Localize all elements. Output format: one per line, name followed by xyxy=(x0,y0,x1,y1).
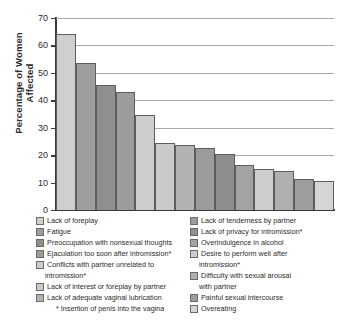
legend-label: Conflicts with partner unrelated to xyxy=(47,260,186,269)
legend-swatch-icon xyxy=(190,305,198,313)
legend-swatch-icon xyxy=(36,283,44,291)
legend-item[interactable]: Overeating xyxy=(190,304,348,313)
bar xyxy=(175,145,195,210)
legend-item[interactable]: Painful sexual intercourse xyxy=(190,293,348,302)
y-axis-title: Percentage of Women Affected xyxy=(13,3,35,163)
bar xyxy=(215,154,235,210)
legend-label: Preoccupation with nonsexual thoughts xyxy=(47,238,186,247)
legend-swatch-icon xyxy=(190,294,198,302)
y-tick-label: 70 xyxy=(18,13,48,23)
legend-swatch-icon xyxy=(36,217,44,225)
legend-swatch-icon xyxy=(190,239,198,247)
legend-label: Overindulgence in alcohol xyxy=(201,238,348,247)
chart-page: Percentage of Women Affected 70605040302… xyxy=(0,0,350,334)
footnote: * Insertion of penis into the vagina xyxy=(56,304,164,313)
legend-item[interactable]: Overindulgence in alcohol xyxy=(190,238,348,247)
legend-column-right: Lack of tenderness by partnerLack of pri… xyxy=(190,216,348,315)
legend-label: Lack of foreplay xyxy=(47,216,186,225)
bar xyxy=(195,148,215,210)
bar xyxy=(254,169,274,210)
legend-item[interactable]: Lack of foreplay xyxy=(36,216,186,225)
legend-item[interactable]: Ejaculation too soon after intromission* xyxy=(36,249,186,258)
legend-item[interactable]: Difficulty with sexual arousal xyxy=(190,271,348,280)
y-tick-label: 40 xyxy=(18,95,48,105)
legend-swatch-icon xyxy=(190,217,198,225)
legend-label: Fatigue xyxy=(47,227,186,236)
y-tick-label: 50 xyxy=(18,68,48,78)
legend-item[interactable]: Desire to perform well after xyxy=(190,249,348,258)
legend-item[interactable]: Conflicts with partner unrelated to xyxy=(36,260,186,269)
legend-label-continuation: intromission* xyxy=(190,260,348,269)
bar xyxy=(155,143,175,210)
legend-item[interactable]: Lack of tenderness by partner xyxy=(190,216,348,225)
bar xyxy=(274,171,294,210)
legend-swatch-icon xyxy=(190,228,198,236)
legend-item[interactable]: Fatigue xyxy=(36,227,186,236)
legend-label-continuation: with partner xyxy=(190,282,348,291)
bar xyxy=(294,179,314,210)
legend-swatch-icon xyxy=(190,272,198,280)
legend-label: Lack of interest or foreplay by partner xyxy=(47,282,186,291)
y-tick-label: 30 xyxy=(18,123,48,133)
legend-label: Desire to perform well after xyxy=(201,249,348,258)
bar-series xyxy=(56,18,334,210)
bar xyxy=(116,92,136,210)
legend-swatch-icon xyxy=(36,239,44,247)
legend-swatch-icon xyxy=(36,294,44,302)
legend-label: Lack of privacy for intromission* xyxy=(201,227,348,236)
y-tick-label: 20 xyxy=(18,150,48,160)
y-tick-label: 60 xyxy=(18,40,48,50)
bar xyxy=(235,165,255,210)
legend-label: Painful sexual intercourse xyxy=(201,293,348,302)
bar xyxy=(314,181,334,210)
legend-swatch-icon xyxy=(36,250,44,258)
plot-area: 706050403020100 xyxy=(56,18,334,210)
legend-label: Lack of tenderness by partner xyxy=(201,216,348,225)
legend-item[interactable]: Lack of adequate vaginal lubrication xyxy=(36,293,186,302)
legend-label: Ejaculation too soon after intromission* xyxy=(47,249,186,258)
legend-label: Lack of adequate vaginal lubrication xyxy=(47,293,186,302)
bar xyxy=(56,34,76,210)
legend-item[interactable]: Preoccupation with nonsexual thoughts xyxy=(36,238,186,247)
y-tick-label: 0 xyxy=(18,205,48,215)
legend-column-left: Lack of foreplayFatiguePreoccupation wit… xyxy=(36,216,186,304)
legend-item[interactable]: Lack of privacy for intromission* xyxy=(190,227,348,236)
legend-swatch-icon xyxy=(36,228,44,236)
legend-label: Difficulty with sexual arousal xyxy=(201,271,348,280)
legend-label-continuation: intromission* xyxy=(36,271,186,280)
legend-swatch-icon xyxy=(190,250,198,258)
bar xyxy=(76,63,96,210)
bar-chart: Percentage of Women Affected 70605040302… xyxy=(0,0,350,216)
chart-legend: Lack of foreplayFatiguePreoccupation wit… xyxy=(0,216,350,296)
bar xyxy=(135,115,155,210)
legend-item[interactable]: Lack of interest or foreplay by partner xyxy=(36,282,186,291)
bar xyxy=(96,85,116,210)
y-tick xyxy=(51,210,56,211)
legend-label: Overeating xyxy=(201,304,348,313)
y-tick-label: 10 xyxy=(18,178,48,188)
legend-swatch-icon xyxy=(36,261,44,269)
